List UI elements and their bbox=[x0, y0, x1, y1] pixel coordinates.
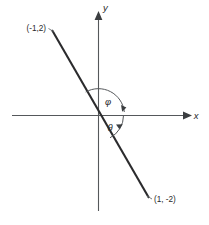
point-label-upper-left: (-1,2) bbox=[26, 24, 46, 33]
y-axis-arrowhead bbox=[95, 11, 103, 20]
angle-label-theta: θ bbox=[107, 122, 113, 133]
diagram-canvas: x y (-1,2) (1, -2) φ θ bbox=[0, 0, 209, 225]
theta-arc-arrowhead bbox=[116, 124, 123, 129]
x-axis-arrowhead bbox=[183, 112, 192, 120]
point-label-lower-right: (1, -2) bbox=[154, 195, 176, 204]
angle-diagram-figure: x y (-1,2) (1, -2) φ θ bbox=[0, 0, 209, 225]
plotted-line bbox=[52, 30, 149, 198]
x-axis-label: x bbox=[193, 110, 200, 121]
y-axis-label: y bbox=[102, 2, 109, 13]
angle-label-phi: φ bbox=[105, 96, 111, 107]
